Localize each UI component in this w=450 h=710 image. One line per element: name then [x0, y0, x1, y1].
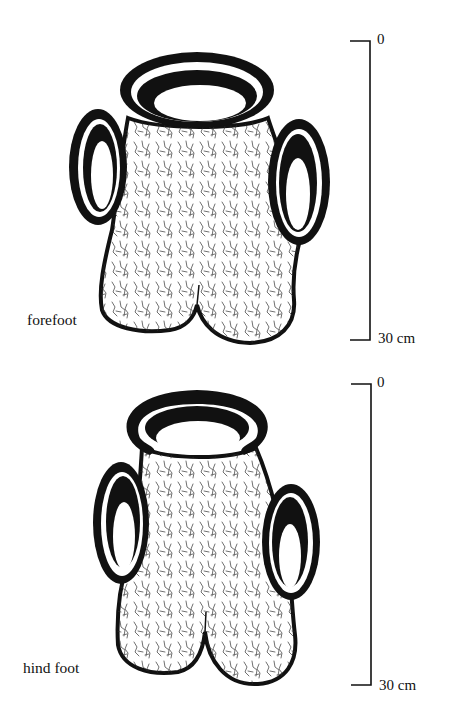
hind-foot-scale-bottom-label: 30 cm: [379, 678, 416, 693]
forefoot-left-toe: [69, 109, 127, 225]
forefoot-scale-top-label: 0: [377, 32, 385, 47]
hind-foot-front-hoof: [127, 390, 268, 455]
hind-foot-label: hind foot: [23, 660, 79, 676]
forefoot-scale-bar: [350, 41, 370, 340]
forefoot-right-toe: [268, 119, 330, 245]
hind-foot-left-toe: [93, 462, 149, 584]
forefoot-front-hoof: [120, 52, 274, 128]
hind-foot-drawing: [93, 390, 320, 684]
hind-foot-right-toe: [262, 484, 320, 600]
hind-foot-scale-bar: [351, 384, 371, 685]
forefoot-label: forefoot: [27, 312, 77, 328]
footprint-figure: [0, 0, 450, 710]
hind-foot-scale-top-label: 0: [377, 375, 385, 390]
forefoot-drawing: [69, 52, 330, 343]
forefoot-scale-bottom-label: 30 cm: [378, 331, 415, 346]
